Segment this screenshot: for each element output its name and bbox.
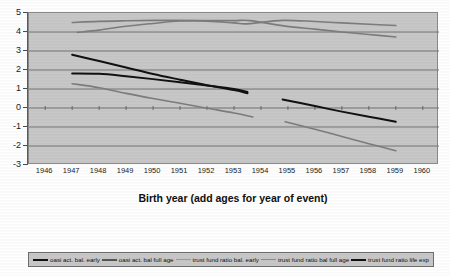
x-tick-label: 1953: [225, 166, 242, 175]
y-tick-label: -2: [13, 140, 21, 150]
x-tick-label: 1949: [117, 166, 134, 175]
y-axis-tick: [23, 164, 27, 165]
legend-item[interactable]: trust fund ratio bal full age: [261, 256, 349, 263]
legend-label: trust fund ratio bal. early: [193, 256, 259, 263]
y-tick-label: 0: [16, 102, 21, 112]
x-axis-title: Birth year (add ages for year of event): [28, 192, 438, 204]
y-tick-label: 1: [16, 83, 21, 93]
x-tick-label: 1957: [333, 166, 350, 175]
y-tick-label: 4: [16, 26, 21, 36]
legend-item[interactable]: trust fund ratio life exp: [351, 256, 429, 263]
y-axis-tick: [23, 31, 27, 32]
x-tick-label: 1959: [386, 166, 403, 175]
y-tick-label: -1: [13, 121, 21, 131]
y-axis-tick: [23, 69, 27, 70]
y-tick-label: 3: [16, 45, 21, 55]
x-tick-label: 1952: [198, 166, 215, 175]
x-tick-label: 1960: [413, 166, 430, 175]
legend-swatch-icon: [33, 259, 48, 261]
x-tick-label: 1947: [63, 166, 80, 175]
legend-swatch-icon: [261, 259, 276, 260]
y-axis-tick: [23, 107, 27, 108]
x-tick-label: 1958: [360, 166, 377, 175]
x-tick-label: 1950: [144, 166, 161, 175]
legend-label: oasi act. bal full age: [119, 256, 174, 263]
y-tick-label: 2: [16, 64, 21, 74]
legend-label: trust fund ratio life exp: [368, 256, 429, 263]
x-tick-label: 1954: [252, 166, 269, 175]
legend-swatch-icon: [351, 259, 366, 261]
y-tick-label: 5: [16, 7, 21, 17]
legend-item[interactable]: oasi act. bal. early: [33, 256, 100, 263]
y-axis-tick: [23, 88, 27, 89]
x-tick-label: 1948: [90, 166, 107, 175]
y-tick-label: -3: [13, 159, 21, 169]
plot-area: [28, 12, 438, 164]
legend-swatch-icon: [102, 259, 117, 261]
legend-item[interactable]: trust fund ratio bal. early: [176, 256, 259, 263]
y-axis-tick: [23, 50, 27, 51]
x-tick-label: 1956: [306, 166, 323, 175]
legend-item[interactable]: oasi act. bal full age: [102, 256, 174, 263]
y-axis-tick: [23, 12, 27, 13]
chart-legend: oasi act. bal. earlyoasi act. bal full a…: [28, 252, 434, 267]
x-tick-label: 1955: [279, 166, 296, 175]
y-axis-tick: [23, 126, 27, 127]
series-line: [283, 99, 396, 121]
x-tick-label: 1951: [171, 166, 188, 175]
y-axis-tick: [23, 145, 27, 146]
x-axis: 1946194719481949195019511952195319541955…: [28, 166, 438, 180]
plot-svg: [29, 13, 439, 165]
chart-container: 543210-1-2-3 194619471948194919501951195…: [0, 0, 450, 276]
x-tick-label: 1946: [36, 166, 53, 175]
legend-label: oasi act. bal. early: [50, 256, 100, 263]
legend-label: trust fund ratio bal full age: [278, 256, 349, 263]
legend-swatch-icon: [176, 259, 191, 260]
